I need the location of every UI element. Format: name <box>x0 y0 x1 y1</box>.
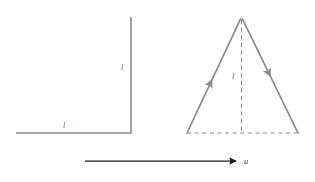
diagram-canvas: l l l u <box>0 0 315 182</box>
figure-root: l l l u <box>0 0 315 182</box>
velocity-arrow-label: u <box>244 157 248 166</box>
canvas-background <box>0 0 315 182</box>
